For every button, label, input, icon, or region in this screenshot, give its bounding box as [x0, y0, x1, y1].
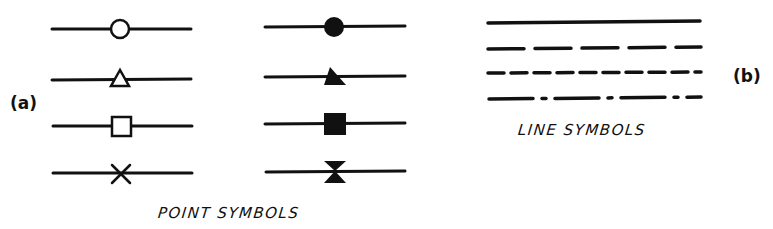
line-symbol-dash-dot [489, 97, 701, 99]
point-symbol-filled-square [265, 113, 405, 135]
point-symbol-open-triangle [52, 70, 191, 86]
line-symbol-long-dash [488, 47, 701, 49]
point-symbols-caption: POINT SYMBOLS [157, 204, 300, 222]
panel-label-a: (a) [10, 93, 37, 113]
point-symbol-cross [53, 165, 192, 183]
point-symbol-open-circle [52, 20, 191, 38]
line-symbols-caption: LINE SYMBOLS [517, 121, 647, 139]
panel-label-b: (b) [733, 66, 761, 86]
point-symbol-filled-circle [265, 17, 405, 37]
line-symbol-solid [488, 21, 700, 23]
symbols-diagram [0, 0, 773, 229]
point-symbol-filled-triangle [265, 67, 405, 85]
line-symbol-short-dash [488, 72, 701, 73]
point-symbol-bowtie [266, 161, 405, 183]
point-symbol-open-square [53, 117, 192, 136]
